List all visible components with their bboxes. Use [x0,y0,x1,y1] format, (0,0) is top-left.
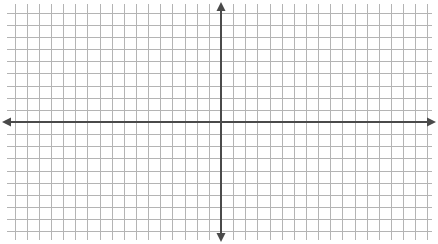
coordinate-grid-figure [0,0,438,244]
x-axis-arrowhead-left [2,118,11,127]
y-axis-arrowhead-down [217,233,226,242]
graph-paper-canvas [0,0,438,244]
x-axis-arrowhead-right [427,118,436,127]
y-axis-arrowhead-up [217,2,226,11]
